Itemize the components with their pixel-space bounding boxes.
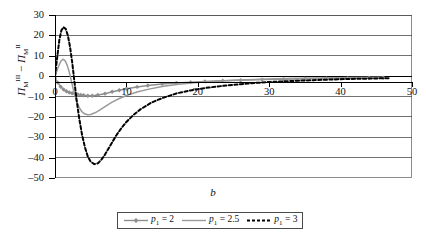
- y-axis-tick-label: –50: [0, 173, 44, 183]
- series-marker: [90, 93, 94, 97]
- y-axis-tick-label: –40: [0, 153, 44, 163]
- y-axis-title: ΠMIII − ΠMII: [14, 22, 30, 118]
- x-axis-tick-label: 40: [329, 86, 353, 97]
- legend-label-3: p1 = 3: [274, 214, 297, 227]
- x-axis-tick-label: 20: [186, 86, 210, 97]
- x-axis-tick-label: 50: [400, 86, 424, 97]
- series-marker: [103, 91, 107, 95]
- y-axis-tick: [49, 117, 55, 118]
- y-axis-tick: [49, 76, 55, 77]
- legend-item-3: p1 = 3: [246, 214, 297, 227]
- chart-figure: 3020100–10–20–30–40–50 01020304050 ΠMIII…: [0, 0, 426, 241]
- x-axis-tick-label: 10: [114, 86, 138, 97]
- y-axis-tick: [49, 158, 55, 159]
- series-marker: [86, 93, 90, 97]
- chart-legend: p1 = 2p1 = 2.5p1 = 3: [117, 212, 303, 229]
- legend-label-1: p1 = 2: [151, 214, 174, 227]
- legend-swatch-3: [246, 216, 272, 225]
- plot-canvas: [55, 15, 412, 178]
- x-axis-tick-label: 0: [43, 86, 67, 97]
- y-axis-tick: [49, 137, 55, 138]
- x-axis-line: [55, 82, 412, 83]
- x-axis-title: b: [0, 186, 426, 198]
- y-axis-tick: [49, 56, 55, 57]
- plot-area: [55, 15, 412, 178]
- y-axis-tick: [49, 15, 55, 16]
- legend-label-2: p1 = 2.5: [209, 214, 239, 227]
- legend-swatch-2: [181, 216, 207, 225]
- legend-item-1: p1 = 2: [123, 214, 174, 227]
- y-axis-tick: [49, 35, 55, 36]
- x-axis-tick-label: 30: [257, 86, 281, 97]
- y-axis-tick: [49, 178, 55, 179]
- series-marker: [146, 83, 150, 87]
- y-axis-tick-label: 30: [0, 10, 44, 20]
- y-axis-tick-label: –30: [0, 132, 44, 142]
- gridlines: [55, 15, 412, 178]
- legend-item-2: p1 = 2.5: [181, 214, 239, 227]
- legend-swatch-1: [123, 216, 149, 225]
